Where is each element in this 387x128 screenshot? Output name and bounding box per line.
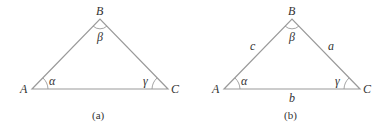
vertex-label-b: B: [96, 4, 104, 18]
triangle-b: A B C α β γ c a b (b): [211, 4, 372, 122]
figure-caption-b: (b): [284, 109, 297, 122]
triangle-a: A B C α β γ (a): [19, 4, 180, 122]
angle-arc-gamma: [152, 78, 157, 89]
angle-arc-beta: [93, 26, 107, 29]
vertex-label-a: A: [19, 82, 28, 96]
angle-label-beta: β: [96, 30, 103, 44]
angle-arc-beta: [285, 26, 299, 29]
vertex-label-a: A: [211, 82, 220, 96]
angle-label-alpha: α: [49, 74, 56, 88]
side-label-c: c: [250, 39, 256, 53]
angle-label-gamma: γ: [143, 74, 148, 88]
angle-label-beta: β: [288, 30, 295, 44]
angle-arc-alpha: [43, 78, 48, 89]
side-label-b: b: [289, 91, 295, 105]
triangle-diagrams: A B C α β γ (a) A B C α β γ c a b (b): [0, 0, 387, 128]
vertex-label-c: C: [363, 82, 372, 96]
figure-caption-a: (a): [92, 109, 105, 122]
angle-arc-alpha: [235, 78, 240, 89]
vertex-label-c: C: [171, 82, 180, 96]
angle-label-gamma: γ: [335, 74, 340, 88]
side-label-a: a: [328, 39, 334, 53]
angle-label-alpha: α: [241, 74, 248, 88]
vertex-label-b: B: [288, 4, 296, 18]
angle-arc-gamma: [344, 78, 349, 89]
